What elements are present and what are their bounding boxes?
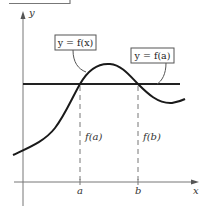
tick-label-a: a xyxy=(77,185,83,196)
callout-f-a-label: y = f(a) xyxy=(134,50,171,61)
label-f-b: f(b) xyxy=(142,131,161,142)
tick-label-b: b xyxy=(135,185,141,196)
y-axis xyxy=(21,11,26,206)
x-axis-arrow-icon xyxy=(191,180,199,185)
clipped-top-box xyxy=(9,0,70,4)
callout-f-a: y = f(a) xyxy=(131,48,174,84)
label-f-a: f(a) xyxy=(84,131,103,142)
callout-f-x: y = f(x) xyxy=(55,35,96,72)
callout-f-a-leader xyxy=(157,63,166,84)
y-axis-arrow-icon xyxy=(21,11,26,19)
callout-f-x-label: y = f(x) xyxy=(57,37,94,48)
callout-f-x-leader xyxy=(73,50,86,72)
x-axis-label: x xyxy=(193,185,199,196)
y-axis-label: y xyxy=(28,7,35,18)
graph-figure: y x a b f(a) f(b) y = f(x) y = f(a) xyxy=(0,0,208,213)
x-axis xyxy=(14,180,199,185)
